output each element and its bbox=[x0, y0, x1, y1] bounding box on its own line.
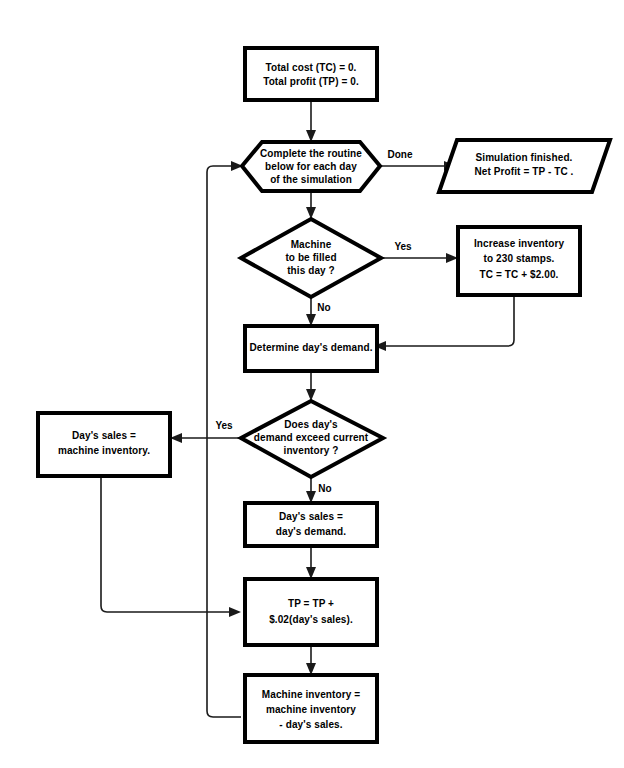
finish-line-1: Simulation finished. bbox=[475, 152, 572, 163]
finish-line-2: Net Profit = TP - TC . bbox=[475, 166, 574, 177]
loop-header-line-1: Complete the routine bbox=[260, 148, 362, 159]
node-finish[interactable]: Simulation finished. Net Profit = TP - T… bbox=[439, 140, 610, 192]
update-inventory-line-2: machine inventory bbox=[266, 704, 356, 715]
node-fill-decision[interactable]: Machine to be filled this day ? bbox=[241, 219, 381, 297]
fill-decision-line-1: Machine bbox=[291, 239, 332, 250]
sales-eq-demand-line-2: day's demand. bbox=[276, 526, 346, 537]
connector-increase-to-determine bbox=[383, 295, 514, 346]
fill-decision-line-2: to be filled bbox=[285, 252, 336, 263]
fill-decision-line-3: this day ? bbox=[287, 265, 335, 276]
edge-label-demand-no: No bbox=[318, 483, 331, 494]
init-box[interactable] bbox=[245, 48, 377, 100]
edge-label-fill-no: No bbox=[317, 302, 330, 313]
edge-label-demand-yes: Yes bbox=[215, 420, 233, 431]
node-determine-demand[interactable]: Determine day's demand. bbox=[245, 326, 377, 371]
increase-inventory-line-1: Increase inventory bbox=[474, 238, 565, 249]
arrowhead-sales-inventory-to-profit bbox=[229, 607, 241, 617]
node-sales-eq-inventory[interactable]: Day's sales = machine inventory. bbox=[38, 413, 170, 476]
update-inventory-line-1: Machine inventory = bbox=[262, 689, 360, 700]
node-sales-eq-demand[interactable]: Day's sales = day's demand. bbox=[245, 503, 377, 546]
update-profit-line-2: $.02(day's sales). bbox=[269, 614, 353, 625]
demand-decision-line-1: Does day's bbox=[284, 419, 338, 430]
node-loop-header[interactable]: Complete the routine below for each day … bbox=[242, 142, 380, 191]
init-line-2: Total profit (TP) = 0. bbox=[263, 76, 359, 87]
flowchart-svg: Total cost (TC) = 0. Total profit (TP) =… bbox=[0, 0, 624, 768]
node-update-profit[interactable]: TP = TP + $.02(day's sales). bbox=[245, 579, 377, 645]
init-line-1: Total cost (TC) = 0. bbox=[266, 62, 357, 73]
demand-decision-line-3: inventory ? bbox=[284, 445, 339, 456]
update-inventory-line-3: - day's sales. bbox=[279, 719, 342, 730]
sales-eq-demand-box[interactable] bbox=[245, 503, 377, 546]
update-profit-line-1: TP = TP + bbox=[288, 598, 334, 609]
increase-inventory-line-2: to 230 stamps. bbox=[484, 253, 555, 264]
loop-header-line-2: below for each day bbox=[265, 161, 357, 172]
demand-decision-line-2: demand exceed current bbox=[254, 432, 369, 443]
loop-header-line-3: of the simulation bbox=[270, 174, 352, 185]
update-profit-box[interactable] bbox=[245, 579, 377, 645]
node-increase-inventory[interactable]: Increase inventory to 230 stamps. TC = T… bbox=[458, 227, 580, 295]
connector-inventory-to-loop bbox=[207, 166, 241, 717]
node-update-inventory[interactable]: Machine inventory = machine inventory - … bbox=[245, 675, 377, 742]
flowchart-canvas: Total cost (TC) = 0. Total profit (TP) =… bbox=[0, 0, 624, 768]
node-init[interactable]: Total cost (TC) = 0. Total profit (TP) =… bbox=[245, 48, 377, 100]
sales-eq-demand-line-1: Day's sales = bbox=[279, 511, 343, 522]
sales-eq-inventory-line-2: machine inventory. bbox=[58, 445, 150, 456]
edge-label-fill-yes: Yes bbox=[394, 241, 412, 252]
determine-demand-line-1: Determine day's demand. bbox=[249, 342, 372, 353]
increase-inventory-line-3: TC = TC + $2.00. bbox=[480, 269, 559, 280]
sales-eq-inventory-line-1: Day's sales = bbox=[72, 430, 136, 441]
connector-sales-inventory-to-profit bbox=[101, 476, 232, 612]
edge-label-done: Done bbox=[388, 149, 413, 160]
node-demand-decision[interactable]: Does day's demand exceed current invento… bbox=[241, 401, 383, 477]
